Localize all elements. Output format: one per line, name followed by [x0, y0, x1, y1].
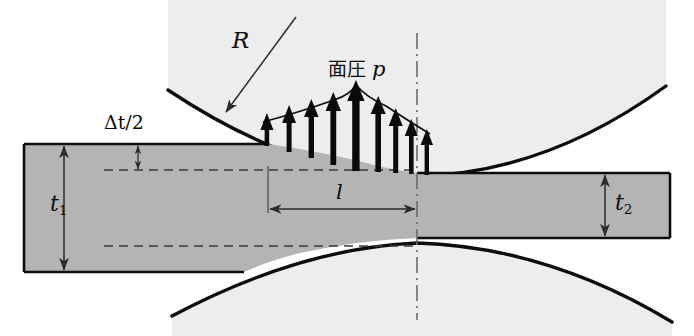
contact-length-label: l [336, 182, 343, 203]
thickness-reduction-label: Δt/2 [104, 113, 144, 132]
entry-thickness-label: t1 [50, 193, 68, 217]
exit-thickness-subscript: 2 [624, 201, 633, 217]
pressure-label: 面圧p [328, 59, 385, 80]
diagram-canvas: R 面圧p Δt/2 t1 t2 l [0, 0, 694, 336]
diagram-svg [0, 0, 694, 336]
pressure-label-jp: 面圧 [328, 58, 366, 80]
exit-thickness-label: t2 [615, 192, 633, 216]
pressure-symbol: p [372, 57, 385, 81]
roll-radius-label: R [232, 29, 249, 52]
entry-thickness-symbol: t [50, 191, 59, 216]
exit-thickness-symbol: t [615, 190, 624, 215]
entry-thickness-subscript: 1 [59, 202, 68, 218]
